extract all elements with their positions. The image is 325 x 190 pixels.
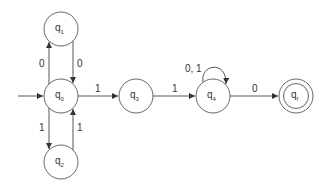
state-q4: q4 [196, 79, 230, 113]
edge-label-q0-q2: 1 [39, 122, 45, 133]
edge-label-q4-q4: 0, 1 [185, 63, 202, 74]
edge-label-q2-q0: 1 [77, 122, 83, 133]
edge-label-q0-q1: 0 [39, 58, 45, 69]
edge-label-q1-q0: 0 [77, 58, 83, 69]
edge-label-q0-q3: 1 [95, 83, 101, 94]
automaton-diagram: 0 0 1 1 1 1 0, 1 0 q1 q0 q2 q3 q4 qf [0, 0, 325, 190]
state-q3: q3 [119, 79, 153, 113]
edge-label-q4-qf: 0 [252, 83, 258, 94]
edge-label-q3-q4: 1 [172, 83, 178, 94]
state-q0: q0 [44, 79, 78, 113]
state-qf-accepting: qf [279, 79, 313, 113]
state-q1: q1 [44, 12, 78, 46]
state-q2: q2 [44, 145, 78, 179]
